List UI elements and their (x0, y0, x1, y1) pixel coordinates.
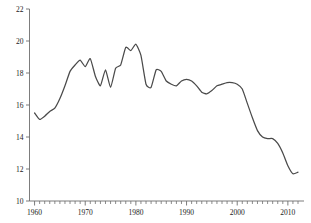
line-chart: 10121416182022 196019701980199020002010 (0, 0, 311, 223)
y-axis-tick-label: 12 (16, 165, 24, 174)
data-series-group (35, 44, 298, 174)
y-axis-tick-label: 18 (16, 69, 24, 78)
x-axis-tick-label: 1990 (179, 208, 194, 217)
x-axis-tick-label: 2000 (230, 208, 245, 217)
x-axis-tick-label: 2010 (280, 208, 295, 217)
x-axis-tick-label: 1980 (128, 208, 143, 217)
x-axis: 196019701980199020002010 (27, 201, 304, 217)
y-axis: 10121416182022 (16, 5, 30, 206)
data-line-series-1 (35, 44, 298, 174)
x-axis-tick-label: 1960 (27, 208, 42, 217)
y-axis-tick-label: 14 (16, 133, 24, 142)
x-axis-tick-label: 1970 (78, 208, 93, 217)
y-axis-tick-label: 10 (16, 197, 24, 206)
chart-canvas: 10121416182022 196019701980199020002010 (0, 0, 311, 223)
y-axis-tick-label: 16 (16, 101, 24, 110)
y-axis-tick-label: 22 (16, 5, 24, 14)
y-axis-tick-label: 20 (16, 37, 24, 46)
